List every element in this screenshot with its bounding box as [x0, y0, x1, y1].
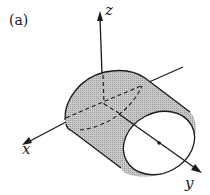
- x-axis-label: x: [22, 142, 30, 157]
- z-axis-label: z: [105, 3, 113, 18]
- z-arrowhead-icon: [97, 11, 103, 21]
- cylinder-diagram: [0, 0, 210, 195]
- y-arrowhead-icon: [191, 164, 202, 173]
- z-axis: [97, 11, 103, 74]
- panel-label: (a): [9, 13, 28, 27]
- y-axis-label: y: [185, 176, 193, 191]
- center-point-icon: [157, 141, 161, 145]
